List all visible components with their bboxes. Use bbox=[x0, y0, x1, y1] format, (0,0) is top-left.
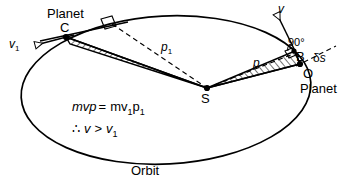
label-perpendicular-p1-main: p bbox=[161, 40, 168, 54]
label-sun-s: S bbox=[201, 92, 210, 105]
label-orbit: Orbit bbox=[131, 164, 159, 177]
eq2-v: v bbox=[84, 121, 91, 136]
eq1-p2: p bbox=[133, 99, 140, 114]
radius-line-s-c bbox=[66, 37, 207, 88]
label-delta-symbol: δ bbox=[313, 51, 320, 65]
perpendicular-p-dashed bbox=[207, 54, 293, 88]
label-perpendicular-p1-subscript: 1 bbox=[168, 47, 172, 56]
eq1-m: m bbox=[72, 99, 83, 114]
eq2-v1-subscript: 1 bbox=[113, 129, 118, 139]
label-velocity-v1-subscript: 1 bbox=[15, 44, 19, 53]
label-point-c: C bbox=[60, 21, 69, 34]
label-planet-c: Planet bbox=[47, 7, 84, 20]
label-arc-s-symbol: s bbox=[320, 51, 326, 65]
equation-angular-momentum: mvp=mv1p1 bbox=[72, 100, 145, 117]
label-perpendicular-p1: p1 bbox=[161, 41, 172, 56]
label-point-b: B bbox=[296, 50, 305, 63]
eq1-p: p bbox=[89, 99, 96, 114]
eq1-m2: m bbox=[110, 99, 121, 114]
orbit-diagram-figure: Planet C v1 p1 v 90° B δs p O Planet S m… bbox=[0, 0, 343, 187]
diagram-canvas bbox=[0, 0, 343, 187]
equation-velocity-inequality: ∴v>v1 bbox=[72, 122, 118, 139]
label-perpendicular-p: p bbox=[253, 57, 260, 69]
tangent-line-at-c bbox=[40, 22, 128, 41]
eq1-equals: = bbox=[99, 99, 107, 114]
eq2-therefore: ∴ bbox=[72, 121, 80, 136]
label-velocity-v1: v1 bbox=[9, 38, 19, 53]
label-right-angle-90: 90° bbox=[288, 37, 305, 48]
eq1-p2-subscript: 1 bbox=[140, 107, 145, 117]
label-planet-o: Planet bbox=[300, 82, 337, 95]
label-point-o: O bbox=[303, 67, 313, 80]
label-velocity-v: v bbox=[278, 3, 284, 15]
label-arc-element-delta-s: δs bbox=[313, 52, 326, 64]
eq2-greater-than: > bbox=[95, 121, 103, 136]
perpendicular-p1-dashed bbox=[112, 24, 207, 88]
